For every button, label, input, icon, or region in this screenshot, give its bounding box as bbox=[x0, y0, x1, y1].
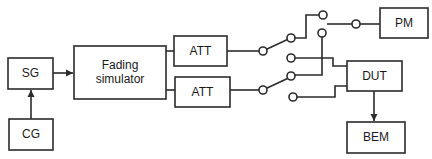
pm-block: PM bbox=[380, 8, 428, 38]
switch1-top-terminal bbox=[287, 34, 295, 42]
sg-label: SG bbox=[22, 66, 39, 80]
dut-block: DUT bbox=[347, 61, 402, 91]
att1-label: ATT bbox=[190, 44, 212, 58]
switch3-bottom-terminal bbox=[318, 29, 326, 37]
dut-label: DUT bbox=[362, 69, 387, 83]
switch2-to-dut-path bbox=[297, 86, 347, 97]
block-diagram: SG CG Fading simulator ATT ATT bbox=[0, 0, 432, 159]
fading-label-line1: Fading bbox=[102, 58, 139, 72]
fading-simulator-block: Fading simulator bbox=[74, 46, 166, 99]
switch2-blade bbox=[266, 79, 288, 89]
pm-switch-pivot-terminal bbox=[352, 20, 360, 28]
switch3-top-terminal bbox=[319, 11, 327, 19]
cg-label: CG bbox=[22, 127, 40, 141]
fading-label-line2: simulator bbox=[96, 72, 145, 86]
att2-block: ATT bbox=[175, 77, 230, 107]
att1-block: ATT bbox=[174, 36, 227, 66]
pm-label: PM bbox=[395, 16, 413, 30]
switch2-bottom-terminal bbox=[289, 93, 297, 101]
att2-label: ATT bbox=[192, 85, 214, 99]
switch1-blade bbox=[266, 40, 288, 50]
bem-block: BEM bbox=[347, 122, 405, 153]
sg-block: SG bbox=[8, 58, 53, 89]
cg-block: CG bbox=[9, 119, 53, 150]
bem-label: BEM bbox=[363, 130, 389, 144]
switch1-bottom-terminal bbox=[287, 54, 295, 62]
switch2-top-terminal bbox=[287, 72, 295, 80]
switch1-pivot-terminal bbox=[259, 47, 267, 55]
switch2-pivot-terminal bbox=[259, 86, 267, 94]
switch1-to-dut-path bbox=[295, 58, 347, 66]
switch3-to-switch2-path bbox=[295, 37, 322, 75]
switch1-to-pm-path bbox=[295, 15, 319, 38]
